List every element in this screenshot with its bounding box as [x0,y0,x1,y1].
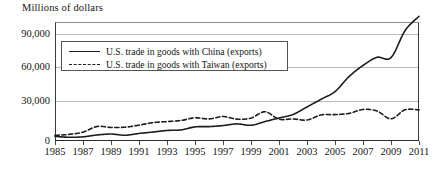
x-tick-label-1989: 1989 [101,146,122,157]
x-tick-mark-1995 [195,141,196,145]
x-tick-label-2003: 2003 [297,146,318,157]
x-tick-label-1993: 1993 [157,146,178,157]
x-tick-mark-1993 [167,141,168,145]
chart-legend: U.S. trade in goods with China (exports)… [61,41,288,71]
x-tick-label-2005: 2005 [325,146,346,157]
x-tick-mark-2007 [363,141,364,145]
x-tick-mark-1989 [111,141,112,145]
legend-label-taiwan: U.S. trade in goods with Taiwan (exports… [106,58,267,71]
x-tick-label-1987: 1987 [73,146,94,157]
x-tick-mark-2001 [279,141,280,145]
legend-swatch-solid-icon [69,51,100,52]
x-tick-label-2001: 2001 [269,146,290,157]
x-tick-label-2009: 2009 [381,146,402,157]
x-tick-mark-1999 [251,141,252,145]
x-tick-mark-2009 [391,141,392,145]
x-tick-mark-2003 [307,141,308,145]
x-tick-label-2007: 2007 [353,146,374,157]
chart-figure: Millions of dollars 90,000 60,000 30,000… [0,0,438,174]
x-tick-mark-2005 [335,141,336,145]
legend-swatch-dashed-icon [69,64,100,65]
legend-item-taiwan: U.S. trade in goods with Taiwan (exports… [69,58,281,71]
x-tick-label-1995: 1995 [185,146,206,157]
series-line-taiwan [55,109,419,135]
x-tick-label-1991: 1991 [129,146,150,157]
x-tick-label-1999: 1999 [241,146,262,157]
legend-label-china: U.S. trade in goods with China (exports) [106,45,262,58]
x-tick-label-1997: 1997 [213,146,234,157]
x-tick-mark-2011 [419,141,420,145]
x-tick-mark-1991 [139,141,140,145]
legend-item-china: U.S. trade in goods with China (exports) [69,45,281,58]
x-tick-mark-1985 [55,141,56,145]
x-tick-mark-1997 [223,141,224,145]
x-tick-mark-1987 [83,141,84,145]
x-tick-label-1985: 1985 [45,146,66,157]
x-tick-label-2011: 2011 [409,146,430,157]
